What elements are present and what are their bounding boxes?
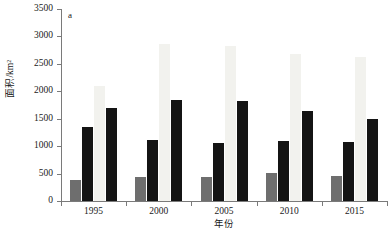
bar-group [70, 10, 117, 201]
bar [266, 173, 277, 201]
x-tick-label: 2005 [194, 206, 254, 217]
bar [201, 177, 212, 201]
bar [147, 140, 158, 201]
y-tick-label: 0 [19, 195, 53, 206]
y-tick-label: 500 [19, 168, 53, 179]
bar [302, 111, 313, 202]
y-tick: 500 [57, 174, 62, 175]
x-tick [387, 201, 388, 206]
bar [367, 119, 378, 201]
bar-group [135, 10, 182, 201]
bar [237, 101, 248, 201]
bar [225, 46, 236, 201]
y-tick: 2000 [57, 91, 62, 92]
bar [82, 127, 93, 201]
bar [331, 176, 342, 201]
bar-chart: 面积/km² a 0500100015002000250030003500 19… [0, 0, 392, 239]
y-tick: 2500 [57, 64, 62, 65]
bar-group [331, 10, 378, 201]
x-tick [257, 201, 258, 206]
x-axis-title: 年份 [61, 219, 387, 230]
y-tick: 3500 [57, 9, 62, 10]
y-tick: 1000 [57, 146, 62, 147]
y-tick: 1500 [57, 119, 62, 120]
y-tick-label: 1000 [19, 140, 53, 151]
y-tick-label: 2000 [19, 85, 53, 96]
y-tick-label: 3000 [19, 30, 53, 41]
bar [135, 177, 146, 201]
bar [159, 44, 170, 201]
x-tick [191, 201, 192, 206]
bar [343, 142, 354, 201]
x-tick [322, 201, 323, 206]
x-tick-label: 2015 [324, 206, 384, 217]
y-axis-title: 面积/km² [6, 44, 16, 114]
bar [171, 100, 182, 201]
bar [70, 180, 81, 201]
x-tick [126, 201, 127, 206]
x-tick-label: 1995 [64, 206, 124, 217]
x-axis-line [61, 201, 387, 202]
bar [94, 86, 105, 201]
bar [278, 141, 289, 201]
y-tick-label: 3500 [19, 3, 53, 14]
x-tick [61, 201, 62, 206]
y-tick-label: 1500 [19, 113, 53, 124]
bar [106, 108, 117, 201]
bar [213, 143, 224, 201]
bar [355, 57, 366, 201]
x-tick-label: 2000 [129, 206, 189, 217]
plot-area: 0500100015002000250030003500 19952000200… [61, 10, 387, 202]
x-tick-label: 2010 [259, 206, 319, 217]
bar-group [201, 10, 248, 201]
bar-group [266, 10, 313, 201]
y-tick-label: 2500 [19, 58, 53, 69]
y-tick: 3000 [57, 36, 62, 37]
bar [290, 54, 301, 201]
